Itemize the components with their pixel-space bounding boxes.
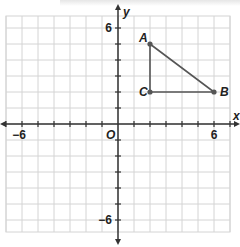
y-tick-label: 6 — [105, 21, 112, 35]
point-a — [147, 41, 152, 46]
x-axis-arrow-left — [0, 121, 6, 127]
point-c — [147, 89, 152, 94]
x-axis-label: x — [232, 109, 240, 123]
point-label-c: C — [139, 85, 148, 99]
y-axis-arrow-up — [115, 4, 121, 10]
y-tick-label: −6 — [98, 213, 112, 227]
coordinate-plane: x y O −666−6ABC — [0, 0, 240, 247]
axes — [0, 4, 240, 245]
point-b — [211, 89, 216, 94]
labels: x y O −666−6ABC — [12, 5, 240, 227]
point-label-a: A — [138, 31, 148, 45]
y-axis-arrow-down — [115, 239, 121, 245]
point-label-b: B — [220, 85, 229, 99]
x-tick-label: −6 — [12, 128, 26, 142]
y-axis-label: y — [122, 5, 131, 19]
x-tick-label: 6 — [211, 128, 218, 142]
origin-label: O — [106, 128, 116, 142]
